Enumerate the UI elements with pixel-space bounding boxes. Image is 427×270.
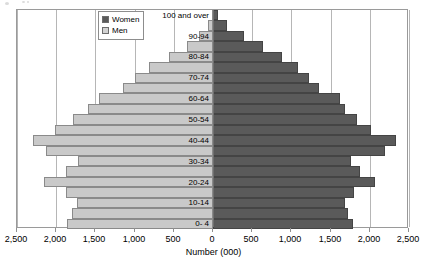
x-axis-tick-label: 2,000 [35, 234, 75, 245]
x-axis-title: Number (000) [0, 247, 427, 258]
age-band-label: 60-64 [189, 94, 211, 103]
x-axis-tick [290, 228, 291, 232]
bar-men [33, 135, 213, 145]
bar-men [88, 104, 213, 114]
age-band-label: 100 and over [162, 11, 211, 20]
bar-row [17, 198, 407, 208]
scan-speck [22, 1, 25, 3]
bar-men [46, 146, 213, 156]
age-band-label: 90-94 [189, 32, 211, 41]
bar-row [17, 20, 407, 30]
bar-women [213, 156, 351, 166]
bar-row [17, 114, 407, 124]
x-axis-tick [369, 228, 370, 232]
bar-men [55, 125, 213, 135]
legend-label: Men [112, 26, 128, 35]
bar-men [72, 208, 213, 218]
x-axis-tick-label: 1,500 [310, 234, 350, 245]
x-axis-tick-label: 500 [153, 234, 193, 245]
bar-row [17, 208, 407, 218]
bar-women [213, 52, 282, 62]
x-axis-tick [330, 228, 331, 232]
bar-row [17, 10, 407, 20]
bar-row [17, 31, 407, 41]
bar-row [17, 52, 407, 62]
x-axis-tick [173, 228, 174, 232]
bar-women [213, 187, 354, 197]
legend-swatch-men-icon [102, 27, 109, 34]
bar-row [17, 62, 407, 72]
bar-women [213, 10, 218, 20]
bar-row [17, 146, 407, 156]
x-axis-tick-label: 1,500 [74, 234, 114, 245]
age-band-label: 30-34 [189, 157, 211, 166]
bar-men [149, 62, 213, 72]
bar-women [213, 166, 360, 176]
population-pyramid-chart: 100 and over90-9480-8470-7460-6450-5440-… [0, 0, 427, 270]
bar-women [213, 198, 345, 208]
bar-men [187, 41, 213, 51]
bar-women [213, 41, 263, 51]
scan-speck [5, 2, 9, 5]
bar-row [17, 125, 407, 135]
age-band-label: 0- 4 [195, 219, 211, 228]
x-axis-tick-label: 1,000 [270, 234, 310, 245]
x-axis-tick [16, 228, 17, 232]
bar-women [213, 83, 319, 93]
age-band-label: 10-14 [189, 198, 211, 207]
x-axis-tick [134, 228, 135, 232]
legend-item-men: Men [102, 25, 139, 36]
age-band-label: 80-84 [189, 52, 211, 61]
bar-row [17, 166, 407, 176]
x-axis-tick [408, 228, 409, 232]
bar-women [213, 104, 345, 114]
x-axis-tick-label: 2,000 [349, 234, 389, 245]
x-axis-tick-label: 1,000 [114, 234, 154, 245]
x-axis-tick [251, 228, 252, 232]
x-axis-tick [212, 228, 213, 232]
bar-row [17, 135, 407, 145]
legend-item-women: Women [102, 14, 139, 25]
x-axis-tick-label: 2,500 [0, 234, 36, 245]
bar-men [66, 166, 213, 176]
bar-women [213, 135, 396, 145]
bar-row [17, 104, 407, 114]
age-band-label: 50-54 [189, 115, 211, 124]
bar-women [213, 125, 371, 135]
bar-men [66, 187, 213, 197]
chart-legend: WomenMen [98, 11, 144, 40]
bar-women [213, 208, 348, 218]
x-axis-tick [55, 228, 56, 232]
bar-row [17, 83, 407, 93]
age-band-label: 40-44 [189, 136, 211, 145]
bar-series-container [17, 10, 407, 227]
bar-women [213, 219, 353, 229]
bar-men [123, 83, 213, 93]
bar-women [213, 93, 340, 103]
bar-row [17, 177, 407, 187]
scan-speck [27, 1, 29, 3]
legend-label: Women [112, 15, 139, 24]
bar-women [213, 114, 357, 124]
bar-row [17, 156, 407, 166]
bar-women [213, 146, 385, 156]
bar-women [213, 62, 298, 72]
legend-swatch-women-icon [102, 16, 109, 23]
x-axis-tick-label: 500 [231, 234, 271, 245]
x-axis-tick-label: 0 [192, 234, 232, 245]
bar-women [213, 31, 244, 41]
bar-men [67, 219, 213, 229]
bar-women [213, 20, 227, 30]
bar-row [17, 187, 407, 197]
bar-women [213, 177, 375, 187]
bar-row [17, 41, 407, 51]
bar-row [17, 93, 407, 103]
bar-women [213, 73, 309, 83]
x-axis-tick [94, 228, 95, 232]
age-band-label: 20-24 [189, 178, 211, 187]
bar-row [17, 73, 407, 83]
plot-area: 100 and over90-9480-8470-7460-6450-5440-… [16, 9, 408, 228]
gridline [409, 10, 410, 227]
age-band-label: 70-74 [189, 73, 211, 82]
x-axis-tick-label: 2,500 [388, 234, 427, 245]
